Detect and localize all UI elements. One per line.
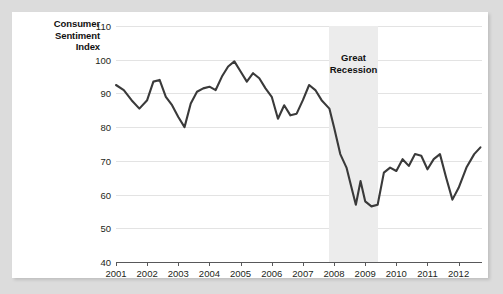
consumer-sentiment-line [116, 61, 480, 206]
chart-plot-area: Consumer Sentiment Index GreatRecession … [12, 12, 488, 278]
figure-card: Consumer Sentiment Index GreatRecession … [12, 12, 488, 278]
data-series-group [12, 12, 488, 278]
